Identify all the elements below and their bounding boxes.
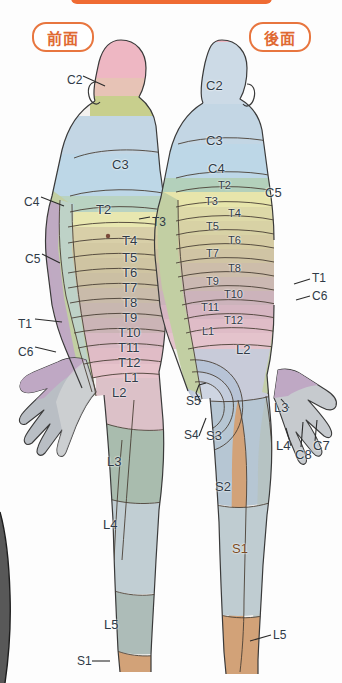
label-back-s3: S3 [206,429,222,442]
label-front-l2: L2 [112,386,126,399]
label-back-l4: L4 [276,439,290,452]
label-back-c3: C3 [206,134,223,147]
label-back-t12: T12 [224,315,243,326]
label-front-t6: T6 [122,266,137,279]
label-back-c7: C7 [313,439,330,452]
label-back-t5: T5 [206,221,219,232]
label-back-t4: T4 [228,208,241,219]
label-back-c4: C4 [208,162,225,175]
view-label-back: 後面 [249,22,311,52]
label-front-c5: C5 [25,253,40,265]
label-front-l4: L4 [103,518,117,531]
label-front-c6: C6 [18,346,33,358]
nipple-marker [106,234,110,238]
label-front-t11: T11 [118,341,139,354]
label-front-t5: T5 [122,251,137,264]
label-back-t6: T6 [228,235,241,246]
label-back-l3: L3 [274,401,288,414]
label-back-t2: T2 [218,180,231,191]
label-front-t12: T12 [118,356,140,369]
label-back-t8: T8 [228,263,241,274]
label-back-s4: S4 [184,429,199,441]
label-front-t3: T3 [152,216,166,228]
top-banner [71,0,272,4]
label-front-c4: C4 [24,196,39,208]
label-front-t2: T2 [96,203,111,216]
label-back-l5: L5 [273,629,286,641]
label-front-s1: S1 [77,655,92,667]
label-back-l2: L2 [236,343,250,356]
label-front-t4: T4 [122,234,137,247]
label-back-t3: T3 [205,196,218,207]
label-front-t9: T9 [122,311,137,324]
label-front-c2: C2 [67,74,82,86]
label-back-t10: T10 [224,289,243,300]
label-front-t8: T8 [122,296,137,309]
label-front-l3: L3 [107,455,121,468]
label-back-s2: S2 [215,480,231,493]
label-back-t7: T7 [206,248,219,259]
label-back-c8: C8 [295,448,312,461]
label-front-t10: T10 [118,326,140,339]
label-back-l1: L1 [202,326,214,337]
label-back-t11: T11 [201,302,219,313]
view-label-front: 前面 [32,22,94,52]
label-back-s1: S1 [232,542,248,555]
label-front-l1: L1 [124,371,138,384]
label-back-t9: T9 [206,276,219,287]
anatomical-illustration [0,0,342,683]
label-front-l5: L5 [104,618,118,631]
label-back-c6: C6 [312,290,327,302]
label-back-s5: S5 [186,395,201,407]
label-back-c2: C2 [206,79,223,92]
label-front-t1: T1 [18,318,32,330]
label-back-t1: T1 [312,272,326,284]
label-front-c3: C3 [112,158,129,171]
label-back-c5: C5 [265,186,282,199]
dermatome-chart: 前面 後面 C2 C3 C4 C5 T1 C6 T2 T3 T4 T5 T6 T… [0,0,342,683]
label-front-t7: T7 [122,281,137,294]
